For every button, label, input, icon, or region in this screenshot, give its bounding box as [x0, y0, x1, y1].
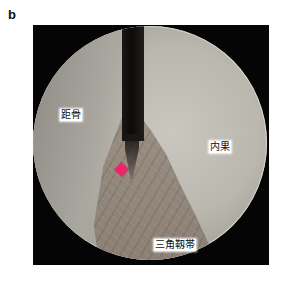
arthroscopy-frame: 距骨 内果 三角靱帯 — [33, 25, 269, 265]
panel-label: b — [8, 7, 16, 22]
label-talus: 距骨 — [60, 109, 82, 121]
label-medial-malleolus: 内果 — [209, 141, 231, 153]
arthroscopic-field-of-view — [33, 26, 267, 260]
label-deltoid-ligament: 三角靱帯 — [154, 239, 196, 251]
instrument-shaft — [122, 26, 144, 141]
